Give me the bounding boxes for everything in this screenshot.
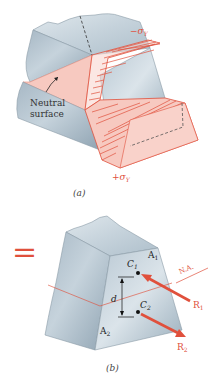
figure-b: N.A. C1 C2 d A1 A2 R1 (45, 216, 208, 373)
resultant-r2-label: R2 (177, 342, 188, 353)
figure-canvas: Neutral surface −σY +σY (a) = N.A. C1 C2 (0, 0, 220, 374)
tension-stress-block (85, 98, 198, 168)
neutral-surface-label-2: surface (30, 109, 64, 119)
centroid-c2-dot (136, 310, 140, 314)
neutral-axis-label: N.A. (178, 263, 195, 276)
resultant-r1-label: R1 (193, 300, 204, 311)
caption-a: (a) (73, 188, 86, 198)
figure-a: Neutral surface −σY +σY (a) (17, 14, 198, 198)
stress-top-label: −σY (130, 26, 149, 37)
centroid-c1-dot (136, 271, 140, 275)
equals-sign: = (12, 234, 37, 269)
stress-bottom-label: +σY (112, 172, 131, 183)
caption-b: (b) (106, 363, 119, 373)
distance-label: d (111, 294, 117, 304)
neutral-surface-label: Neutral (30, 98, 65, 108)
